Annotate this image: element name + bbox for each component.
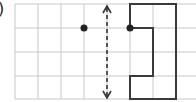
grid <box>15 4 196 99</box>
shape-point <box>127 25 134 32</box>
reflection-diagram <box>0 0 196 102</box>
left-point <box>81 25 88 32</box>
